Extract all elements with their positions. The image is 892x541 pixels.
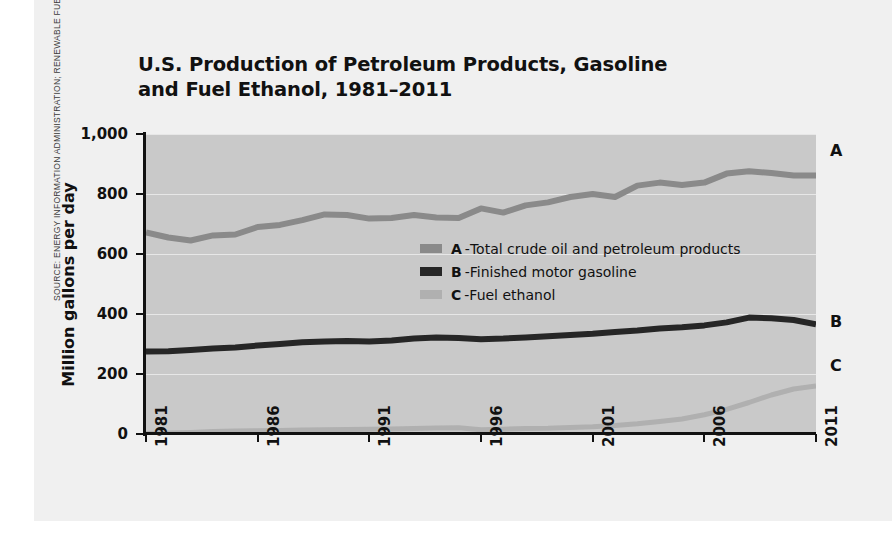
legend-swatch-c [420,290,442,299]
y-tick-mark-1000 [136,133,144,135]
y-tick-label-600: 600 [38,245,128,263]
legend-label-a: Total crude oil and petroleum products [470,241,741,257]
y-tick-label-800: 800 [38,185,128,203]
legend-item-b: B- Finished motor gasoline [420,261,741,282]
legend-swatch-a [420,244,442,253]
legend-key-c: C [451,287,461,303]
y-axis-line [143,132,146,436]
x-tick-label-1986: 1986 [265,405,283,447]
chart-title-line-1: U.S. Production of Petroleum Products, G… [138,52,778,77]
y-tick-label-400: 400 [38,305,128,323]
x-tick-mark-1986 [257,434,259,442]
chart-figure: SOURCE: ENERGY INFORMATION ADMINISTRATIO… [0,0,892,541]
legend-label-b: Finished motor gasoline [470,264,637,280]
series-c-end-label: C [830,356,842,375]
x-tick-mark-1991 [368,434,370,442]
series-b-end-label: B [830,312,842,331]
chart-legend: A- Total crude oil and petroleum product… [420,238,741,307]
x-tick-mark-2006 [703,434,705,442]
series-line-b [146,318,816,352]
y-tick-mark-800 [136,193,144,195]
x-tick-mark-1981 [145,434,147,442]
chart-title-line-2: and Fuel Ethanol, 1981–2011 [138,77,778,102]
x-tick-label-1991: 1991 [376,405,394,447]
series-a-end-label: A [830,141,842,160]
legend-label-c: Fuel ethanol [469,287,555,303]
x-tick-label-1996: 1996 [488,405,506,447]
legend-key-a: A [451,241,462,257]
legend-item-a: A- Total crude oil and petroleum product… [420,238,741,259]
y-tick-mark-400 [136,313,144,315]
x-tick-label-1981: 1981 [153,405,171,447]
legend-swatch-b [420,267,442,276]
legend-key-b: B [451,264,462,280]
y-tick-label-200: 200 [38,365,128,383]
y-tick-mark-0 [136,433,144,435]
x-tick-mark-2011 [815,434,817,442]
y-tick-mark-600 [136,253,144,255]
x-tick-label-2006: 2006 [711,405,729,447]
chart-title: U.S. Production of Petroleum Products, G… [138,52,778,102]
x-tick-mark-2001 [592,434,594,442]
x-tick-mark-1996 [480,434,482,442]
y-tick-label-0: 0 [38,425,128,443]
y-tick-label-1000: 1,000 [38,125,128,143]
series-line-a [146,171,816,240]
x-tick-label-2011: 2011 [823,405,841,447]
y-tick-mark-200 [136,373,144,375]
x-tick-label-2001: 2001 [600,405,618,447]
legend-item-c: C- Fuel ethanol [420,284,741,305]
